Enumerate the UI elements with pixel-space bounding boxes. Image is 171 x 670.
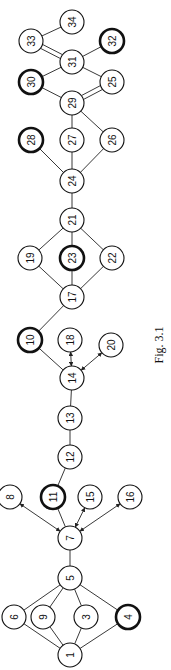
node-30: 30	[19, 70, 43, 94]
node-label: 32	[107, 35, 118, 47]
node-label: 27	[67, 134, 78, 146]
node-label: 24	[67, 175, 78, 187]
node-18: 18	[58, 328, 82, 352]
node-33: 33	[19, 29, 43, 53]
edge-33-34	[42, 27, 61, 36]
node-label: 18	[65, 334, 76, 346]
node-label: 7	[65, 535, 76, 541]
node-label: 4	[123, 614, 134, 620]
edge-11-12	[58, 468, 66, 486]
edge-19-21	[39, 228, 63, 250]
edge-1-3	[75, 628, 82, 644]
edge-17-19	[39, 266, 63, 289]
node-label: 8	[5, 494, 16, 500]
edge-29-25	[82, 86, 101, 96]
edge-30-31	[42, 67, 61, 76]
node-26: 26	[100, 128, 124, 152]
node-label: 25	[107, 76, 118, 88]
edge-31-33	[41, 48, 61, 58]
node-1: 1	[58, 643, 82, 667]
node-25: 25	[100, 70, 124, 94]
edge-29-25	[84, 90, 103, 100]
node-label: 14	[67, 372, 78, 384]
node-label: 10	[25, 334, 36, 346]
node-9: 9	[31, 605, 55, 629]
edge-26-29	[81, 111, 103, 132]
edge-14-20	[81, 353, 102, 370]
node-label: 16	[125, 491, 136, 503]
node-28: 28	[19, 128, 43, 152]
node-21: 21	[60, 208, 84, 232]
node-label: 15	[85, 491, 96, 503]
nodes-layer: 1693457811151612131410182017192322212428…	[0, 10, 142, 667]
edge-22-21	[81, 228, 104, 249]
edge-24-28	[39, 148, 63, 172]
node-label: 5	[65, 575, 76, 581]
node-label: 22	[107, 252, 118, 264]
node-6: 6	[2, 605, 26, 629]
node-11: 11	[41, 485, 65, 509]
node-label: 11	[48, 491, 59, 502]
node-label: 34	[67, 16, 78, 28]
edge-31-33	[43, 45, 63, 55]
edge-17-22	[81, 266, 104, 288]
node-label: 12	[65, 451, 76, 463]
node-label: 6	[9, 614, 20, 620]
node-19: 19	[18, 246, 42, 270]
edge-24-26	[80, 149, 103, 173]
node-10: 10	[18, 328, 42, 352]
node-29: 29	[60, 91, 84, 115]
node-5: 5	[58, 566, 82, 590]
node-8: 8	[0, 485, 22, 509]
graph-diagram: 1693457811151612131410182017192322212428…	[0, 0, 171, 670]
node-label: 26	[107, 134, 118, 146]
edge-14-18	[71, 352, 72, 366]
figure-caption: Fig. 3.1	[152, 326, 166, 363]
node-16: 16	[118, 485, 142, 509]
node-14: 14	[60, 366, 84, 390]
edge-5-3	[75, 589, 82, 606]
edge-25-31	[83, 67, 102, 76]
node-label: 20	[106, 339, 117, 351]
node-12: 12	[58, 445, 82, 469]
node-31: 31	[60, 50, 84, 74]
node-label: 17	[67, 291, 78, 303]
node-13: 13	[58, 406, 82, 430]
node-label: 29	[67, 97, 78, 109]
node-label: 21	[67, 214, 78, 226]
node-label: 31	[67, 56, 78, 68]
node-23: 23	[60, 246, 84, 270]
node-32: 32	[100, 29, 124, 53]
node-label: 1	[65, 652, 76, 658]
edge-31-32	[83, 47, 102, 57]
edge-13-14	[71, 390, 72, 406]
node-17: 17	[60, 285, 84, 309]
edge-7-11	[58, 508, 66, 527]
node-7: 7	[58, 526, 82, 550]
node-4: 4	[116, 605, 140, 629]
node-15: 15	[78, 485, 102, 509]
edge-29-30	[42, 87, 62, 97]
node-label: 3	[81, 614, 92, 620]
node-3: 3	[74, 605, 98, 629]
node-label: 23	[67, 252, 78, 264]
node-22: 22	[100, 246, 124, 270]
node-34: 34	[60, 10, 84, 34]
node-label: 19	[25, 252, 36, 264]
node-24: 24	[60, 169, 84, 193]
node-label: 13	[65, 412, 76, 424]
node-label: 9	[38, 614, 49, 620]
node-20: 20	[99, 333, 123, 357]
node-label: 30	[26, 76, 37, 88]
edge-14-10	[39, 348, 63, 370]
edge-7-15	[75, 508, 84, 527]
node-label: 28	[26, 134, 37, 146]
node-label: 33	[26, 35, 37, 47]
node-27: 27	[60, 128, 84, 152]
edge-10-17	[38, 306, 63, 332]
